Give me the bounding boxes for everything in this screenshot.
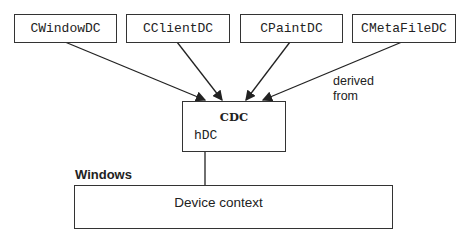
cdc-title: CDC — [183, 110, 285, 124]
hdc-member: hDC — [194, 128, 217, 143]
class-box-cmetafiledc: CMetaFileDC — [352, 14, 456, 43]
windows-section-label: Windows — [75, 167, 132, 182]
class-box-cdc: CDC hDC — [182, 101, 286, 152]
derived-from-label: derived from — [333, 74, 374, 104]
device-context-label: Device context — [75, 195, 392, 210]
class-label: CPaintDC — [260, 21, 322, 36]
device-context-box: Device context — [74, 185, 393, 229]
class-label: CClientDC — [143, 21, 213, 36]
class-box-cwindowdc: CWindowDC — [14, 14, 117, 43]
class-box-cpaintdc: CPaintDC — [240, 14, 343, 43]
class-label: CMetaFileDC — [361, 21, 447, 36]
class-label: CWindowDC — [30, 21, 100, 36]
class-box-cclientdc: CClientDC — [126, 14, 230, 43]
